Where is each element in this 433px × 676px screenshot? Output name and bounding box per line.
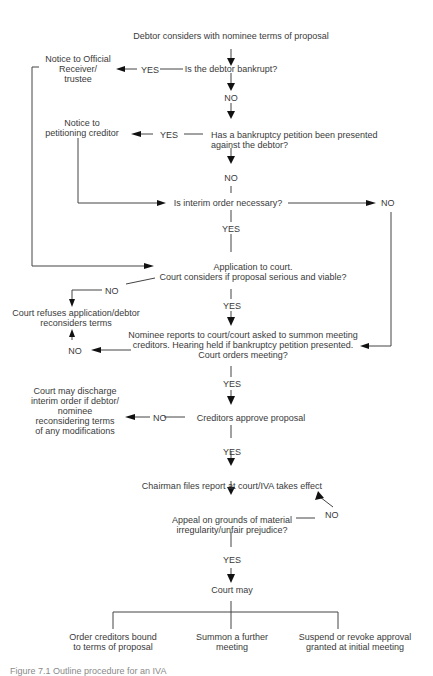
outcome-suspend-or-revoke: Suspend or revoke approval granted at in…	[299, 632, 412, 652]
line: of any modifications	[31, 426, 119, 436]
line: Receiver/	[45, 64, 110, 74]
node-start: Debtor considers with nominee terms of p…	[133, 31, 329, 41]
edge-label-no: NO	[381, 198, 395, 208]
line: interim order if debtor/	[31, 396, 119, 406]
line: irregularity/unfair prejudice?	[172, 525, 292, 535]
line: Notice to Official	[45, 54, 110, 64]
line: petitioning creditor	[45, 128, 119, 138]
edge-label-no: NO	[153, 413, 167, 423]
edge-label-yes: YES	[223, 447, 241, 457]
edge-label-yes: YES	[223, 301, 241, 311]
line: Court may discharge	[31, 386, 119, 396]
decision-creditors-approve: Creditors approve proposal	[197, 413, 306, 423]
line: Suspend or revoke approval	[299, 632, 412, 642]
line: Has a bankruptcy petition been presented	[211, 130, 378, 140]
edge-label-yes: YES	[160, 130, 178, 140]
line: to terms of proposal	[69, 642, 157, 652]
edge-label-no: NO	[224, 173, 238, 183]
edge-label-yes: YES	[141, 65, 159, 75]
edge-label-yes: YES	[222, 224, 240, 234]
line: granted at initial meeting	[299, 642, 412, 652]
line: Court orders meeting?	[128, 350, 358, 360]
edge-label-no: NO	[105, 286, 119, 296]
line: reconsiders terms	[12, 318, 140, 328]
outcome-summon-further-meeting: Summon a further meeting	[196, 632, 268, 652]
decision-court-orders-meeting: Nominee reports to court/court asked to …	[128, 330, 358, 360]
node-notice-petitioning-creditor: Notice to petitioning creditor	[45, 118, 119, 138]
edge-label-yes: YES	[223, 555, 241, 565]
decision-appeal: Appeal on grounds of material irregulari…	[172, 515, 292, 535]
line: Nominee reports to court/court asked to …	[128, 330, 358, 340]
line: trustee	[45, 74, 110, 84]
node-chairman-files-report: Chairman files report at court/IVA takes…	[142, 481, 322, 491]
line: Summon a further	[196, 632, 268, 642]
line: meeting	[196, 642, 268, 652]
edge-label-yes: YES	[223, 379, 241, 389]
decision-petition-presented: Has a bankruptcy petition been presented…	[211, 130, 378, 150]
line: Court refuses application/debtor	[12, 308, 140, 318]
line: Notice to	[45, 118, 119, 128]
line: Application to court.	[159, 262, 346, 272]
decision-debtor-bankrupt: Is the debtor bankrupt?	[185, 64, 278, 74]
decision-application-to-court: Application to court. Court considers if…	[159, 262, 346, 282]
line: Appeal on grounds of material	[172, 515, 292, 525]
line: creditors. Hearing held if bankruptcy pe…	[128, 340, 358, 350]
node-court-may: Court may	[211, 585, 253, 595]
line: reconsidering terms	[31, 416, 119, 426]
edge-label-no: NO	[68, 346, 82, 356]
figure-caption: Figure 7.1 Outline procedure for an IVA	[10, 666, 166, 676]
line: against the debtor?	[211, 140, 378, 150]
node-notice-official-receiver: Notice to Official Receiver/ trustee	[45, 54, 110, 84]
line: Order creditors bound	[69, 632, 157, 642]
edge-label-no: NO	[224, 93, 238, 103]
node-court-refuses: Court refuses application/debtor reconsi…	[12, 308, 140, 328]
line: nominee	[31, 406, 119, 416]
edge-label-no: NO	[325, 510, 339, 520]
node-court-may-discharge: Court may discharge interim order if deb…	[31, 386, 119, 436]
outcome-order-creditors-bound: Order creditors bound to terms of propos…	[69, 632, 157, 652]
line: Court considers if proposal serious and …	[159, 272, 346, 282]
decision-interim-order: Is interim order necessary?	[174, 198, 283, 208]
